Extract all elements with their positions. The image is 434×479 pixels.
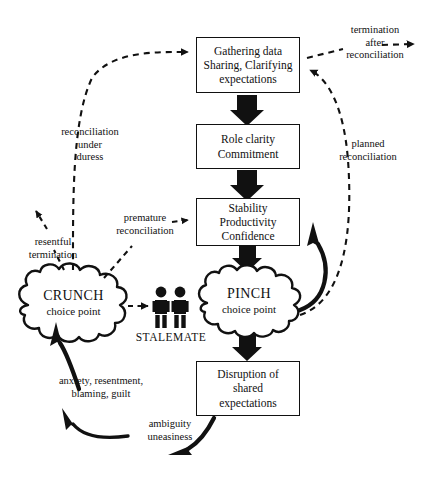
- box-disruption-line-1: Disruption of: [197, 367, 299, 381]
- label-anxiety-line-2: blaming, guilt: [30, 388, 172, 401]
- label-anxiety-line-1: anxiety, resentment,: [30, 375, 172, 388]
- pinch-crunch-diagram: Gathering data Sharing, Clarifying expec…: [0, 0, 434, 479]
- box-gathering-line-1: Gathering data: [197, 44, 299, 58]
- block-arrow-gathering-to-role: [230, 95, 264, 126]
- edge-ambiguity-to-anxiety: [62, 408, 128, 437]
- label-premature-line-1: premature: [104, 212, 186, 225]
- box-gathering-data: Gathering data Sharing, Clarifying expec…: [196, 37, 300, 93]
- box-role-clarity-line-2: Commitment: [197, 147, 299, 161]
- block-arrow-role-to-stability: [230, 170, 264, 201]
- label-duress-line-3: duress: [38, 151, 142, 164]
- crunch-cloud-shape: [19, 263, 126, 341]
- label-termination-line-2: after: [329, 37, 421, 50]
- label-reconciliation-under-duress: reconciliation under duress: [38, 126, 142, 164]
- label-ambiguity-uneasiness: ambiguity uneasiness: [124, 418, 216, 443]
- label-termination-line-1: termination: [329, 24, 421, 37]
- label-resentful-line-2: termination: [10, 249, 96, 262]
- label-planned-reconciliation: planned reconciliation: [318, 138, 418, 163]
- label-planned-line-2: reconciliation: [318, 151, 418, 164]
- edge-pinch-to-stability-hook: [300, 222, 326, 310]
- label-ambiguity-line-1: ambiguity: [124, 418, 216, 431]
- label-termination-line-3: reconciliation: [329, 49, 421, 62]
- label-duress-line-1: reconciliation: [38, 126, 142, 139]
- box-stability-line-1: Stability: [197, 201, 299, 215]
- pinch-cloud-shape: [199, 265, 300, 337]
- label-anxiety-resentment: anxiety, resentment, blaming, guilt: [30, 375, 172, 400]
- label-premature-line-2: reconciliation: [104, 225, 186, 238]
- label-termination-after-reconciliation: termination after reconciliation: [329, 24, 421, 62]
- label-duress-line-2: under: [38, 139, 142, 152]
- stalemate-figures-icon: [153, 287, 189, 328]
- box-gathering-line-3: expectations: [197, 72, 299, 86]
- box-role-clarity: Role clarity Commitment: [196, 124, 300, 169]
- box-disruption: Disruption of shared expectations: [196, 361, 300, 416]
- label-planned-line-1: planned: [318, 138, 418, 151]
- box-stability-line-3: Confidence: [197, 229, 299, 243]
- box-stability: Stability Productivity Confidence: [196, 198, 300, 246]
- box-disruption-line-3: expectations: [197, 396, 299, 410]
- box-role-clarity-line-1: Role clarity: [197, 132, 299, 146]
- box-gathering-line-2: Sharing, Clarifying: [197, 58, 299, 72]
- label-ambiguity-line-2: uneasiness: [124, 431, 216, 444]
- label-resentful-line-1: resentful: [10, 236, 96, 249]
- label-premature-reconciliation: premature reconciliation: [104, 212, 186, 237]
- stalemate-label: STALEMATE: [128, 331, 214, 345]
- box-stability-line-2: Productivity: [197, 215, 299, 229]
- box-disruption-line-2: shared: [197, 381, 299, 395]
- label-resentful-termination: resentful termination: [10, 236, 96, 261]
